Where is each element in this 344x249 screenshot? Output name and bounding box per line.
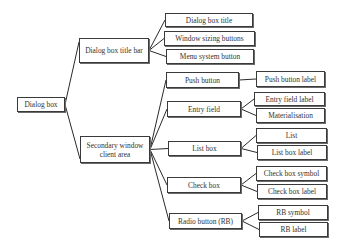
- node-check-box-symbol: Check box symbol: [256, 166, 327, 181]
- node-push-button-label: Push button label: [256, 71, 325, 87]
- node-list-box-label: List box label: [257, 145, 327, 160]
- node-window-sizing-buttons: Window sizing buttons: [164, 31, 255, 46]
- hierarchy-diagram: Dialog box Dialog box title bar Secondar…: [0, 0, 344, 249]
- node-entry-field: Entry field: [167, 101, 241, 117]
- node-list: List: [256, 128, 327, 143]
- node-rb-label: RB label: [259, 222, 328, 237]
- node-push-button: Push button: [166, 72, 239, 88]
- node-list-box: List box: [168, 141, 241, 156]
- node-dialog-box-title-bar: Dialog box title bar: [79, 38, 149, 63]
- node-check-box: Check box: [167, 177, 241, 193]
- node-dialog-box-title: Dialog box title: [165, 13, 253, 27]
- node-menu-system-button: Menu system button: [166, 49, 254, 64]
- node-check-box-label: Check box label: [257, 184, 327, 199]
- node-rb-symbol: RB symbol: [258, 205, 328, 220]
- node-materialisation: Materialisation: [256, 108, 325, 123]
- node-entry-field-label: Entry field label: [254, 92, 325, 106]
- node-dialog-box: Dialog box: [17, 97, 65, 112]
- node-radio-button: Radio button (RB): [169, 213, 242, 229]
- node-secondary-window-client-area: Secondary window client area: [80, 136, 150, 163]
